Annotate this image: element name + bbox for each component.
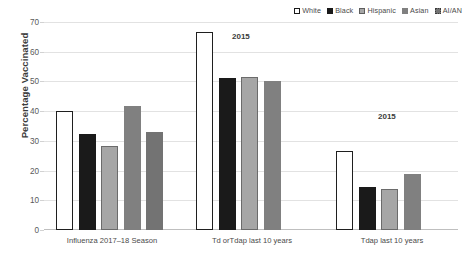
bar-white-group1[interactable]: [56, 111, 73, 230]
y-axis-title: Percentage Vaccinated: [19, 16, 30, 156]
bar-group-1: [56, 22, 168, 230]
bar-asian-group2[interactable]: [264, 81, 281, 230]
y-tick-mark-50: [40, 81, 44, 82]
x-axis-label-3: Tdap last 10 years: [322, 236, 462, 245]
legend-swatch-aian-icon: [435, 8, 441, 14]
bar-asian-group3[interactable]: [404, 174, 421, 230]
bar-chart: White Black Hispanic Asian AI/AN Percent…: [0, 0, 466, 260]
legend-label-hispanic: Hispanic: [367, 6, 395, 15]
bar-white-group2[interactable]: [196, 32, 213, 230]
legend-label-white: White: [302, 6, 321, 15]
x-axis-label-1: Influenza 2017–18 Season: [42, 236, 182, 245]
y-tick-label-60: 60: [30, 47, 39, 56]
y-tick-mark-30: [40, 141, 44, 142]
y-tick-mark-60: [40, 52, 44, 53]
bar-black-group2[interactable]: [219, 78, 236, 230]
legend-item-aian[interactable]: AI/AN: [435, 6, 462, 15]
bar-hispanic-group3[interactable]: [381, 189, 398, 230]
annotation-year-1: 2015: [232, 32, 250, 41]
y-tick-label-50: 50: [30, 77, 39, 86]
y-tick-mark-70: [40, 22, 44, 23]
legend-label-aian: AI/AN: [443, 6, 462, 15]
y-tick-mark-40: [40, 111, 44, 112]
legend-item-asian[interactable]: Asian: [402, 6, 429, 15]
y-tick-mark-20: [40, 171, 44, 172]
y-tick-label-20: 20: [30, 166, 39, 175]
bar-group-2: [196, 22, 308, 230]
y-tick-label-10: 10: [30, 196, 39, 205]
bar-asian-group1[interactable]: [124, 106, 141, 230]
y-tick-mark-10: [40, 200, 44, 201]
y-tick-mark-0: [40, 230, 44, 231]
y-tick-label-70: 70: [30, 18, 39, 27]
legend-item-hispanic[interactable]: Hispanic: [359, 6, 396, 15]
legend-label-asian: Asian: [410, 6, 428, 15]
bar-hispanic-group2[interactable]: [241, 77, 258, 230]
chart-legend: White Black Hispanic Asian AI/AN: [294, 6, 462, 15]
legend-swatch-black-icon: [327, 8, 333, 14]
bar-black-group1[interactable]: [79, 134, 96, 230]
annotation-year-2: 2015: [378, 112, 396, 121]
legend-swatch-hispanic-icon: [359, 8, 365, 14]
legend-swatch-white-icon: [294, 8, 300, 14]
plot-area: 010203040506070: [44, 22, 458, 230]
y-tick-label-0: 0: [34, 226, 39, 235]
y-tick-label-30: 30: [30, 136, 39, 145]
bar-white-group3[interactable]: [336, 151, 353, 230]
legend-swatch-asian-icon: [402, 8, 408, 14]
legend-item-white[interactable]: White: [294, 6, 321, 15]
bar-hispanic-group1[interactable]: [101, 146, 118, 230]
bar-aian-group1[interactable]: [146, 132, 163, 230]
bar-group-3: [336, 22, 448, 230]
bar-black-group3[interactable]: [359, 187, 376, 230]
legend-item-black[interactable]: Black: [327, 6, 353, 15]
x-axis-label-2: Td orTdap last 10 years: [182, 236, 322, 245]
legend-label-black: Black: [335, 6, 353, 15]
y-tick-label-40: 40: [30, 107, 39, 116]
